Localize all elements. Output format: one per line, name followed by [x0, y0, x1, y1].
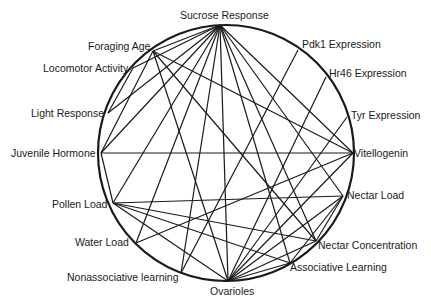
edge-foraging-ovarioles	[153, 51, 228, 281]
edge-group	[101, 25, 353, 281]
node-label-pollen: Pollen Load	[52, 198, 107, 210]
node-label-locomotor: Locomotor Activity	[43, 62, 128, 74]
node-label-nonassoc: Nonassociative learning	[67, 271, 178, 283]
node-label-sucrose: Sucrose Response	[180, 9, 269, 21]
edge-pollen-jh	[101, 153, 113, 203]
node-label-ovarioles: Ovarioles	[210, 285, 254, 297]
node-label-nectar_conc: Nectar Concentration	[318, 239, 417, 251]
edge-sucrose-foraging	[153, 25, 220, 51]
edge-nectar_load-nectar_conc	[316, 196, 343, 241]
edge-hr46-ovarioles	[228, 77, 326, 281]
edge-nectar_load-pollen	[113, 196, 343, 203]
edge-sucrose-nectar_conc	[220, 25, 316, 241]
node-label-pdk1: Pdk1 Expression	[302, 38, 381, 50]
edge-vitellogenin-water	[136, 153, 353, 243]
node-label-vitellogenin: Vitellogenin	[354, 147, 408, 159]
node-label-tyr: Tyr Expression	[351, 109, 420, 121]
node-label-assoc: Associative Learning	[290, 261, 387, 273]
node-label-water: Water Load	[75, 236, 129, 248]
node-label-light: Light Response	[31, 107, 104, 119]
node-label-jh: Juvenile Hormone	[11, 147, 96, 159]
node-label-hr46: Hr46 Expression	[329, 67, 407, 79]
edge-foraging-nectar_conc	[153, 51, 316, 241]
edge-locomotor-light	[108, 68, 133, 113]
edge-sucrose-assoc	[220, 25, 290, 263]
node-label-nectar_load: Nectar Load	[347, 189, 404, 201]
node-label-foraging: Foraging Age	[88, 40, 150, 52]
